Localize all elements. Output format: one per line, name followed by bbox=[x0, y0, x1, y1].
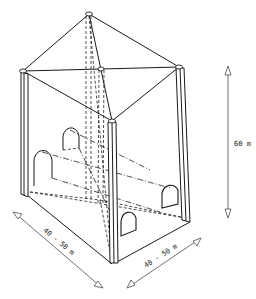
arrow-right-end-icon-2 bbox=[193, 238, 201, 246]
hidden-bottom-left-back bbox=[30, 192, 100, 200]
tunnel-right-back-arch bbox=[63, 128, 79, 150]
tunnel-right bbox=[63, 128, 150, 236]
hidden-center-shaft-left bbox=[98, 70, 99, 205]
roof bbox=[20, 12, 183, 123]
arrow-down-icon bbox=[225, 209, 231, 218]
roof-edge-back-right bbox=[89, 14, 179, 67]
tunnel-left-back-arch bbox=[34, 150, 52, 186]
arrow-left-end-icon-2 bbox=[127, 280, 135, 288]
cap-left bbox=[20, 69, 27, 73]
dimension-width-right: 40 - 50 m bbox=[127, 238, 201, 288]
dimension-width-right-line bbox=[130, 240, 198, 286]
cap-front bbox=[109, 119, 116, 123]
dimension-width-left-line bbox=[16, 214, 100, 286]
dimension-width-left: 40 - 50 m bbox=[13, 212, 103, 288]
tunnel-right-exit-arch bbox=[121, 212, 136, 236]
arrow-up-icon bbox=[225, 66, 231, 75]
tunnel-left-bottom-edge bbox=[52, 178, 160, 212]
roof-edge-back-left bbox=[23, 14, 89, 71]
cap-center bbox=[98, 67, 104, 71]
tunnel-right-back-base bbox=[63, 148, 79, 150]
dimension-height: 60 m bbox=[225, 66, 251, 218]
roof-edge-front-right bbox=[112, 67, 179, 121]
tunnel-left-top-edge bbox=[42, 152, 170, 188]
cap-back bbox=[86, 12, 93, 16]
cap-right bbox=[176, 65, 183, 69]
dimension-height-label: 60 m bbox=[234, 140, 251, 148]
tunnel-left bbox=[34, 150, 178, 212]
tunnel-left-exit-arch bbox=[162, 185, 178, 208]
cavern-diagram: 60 m 40 - 50 m 40 - 50 m bbox=[0, 0, 256, 299]
hidden-center-shaft-right bbox=[103, 70, 104, 205]
